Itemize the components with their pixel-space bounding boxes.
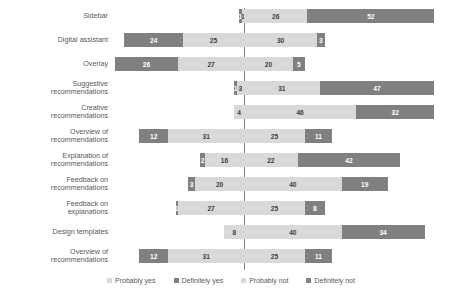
bar-segment-value: 25 <box>271 133 278 140</box>
bar-segment-py: 25 <box>244 201 305 215</box>
bar-segment-value: 26 <box>143 61 150 68</box>
bar-segment-value: 12 <box>150 133 157 140</box>
bar-segment-py: 26 <box>244 9 307 23</box>
bar-segment-py: 22 <box>244 153 298 167</box>
legend-swatch-icon <box>107 278 112 283</box>
bar-segment-value: 31 <box>203 133 210 140</box>
bar-segment-value: 24 <box>150 37 157 44</box>
chart-row: Suggestiverecommendations133147 <box>0 76 462 100</box>
bar-segment-pn: 4 <box>234 105 244 119</box>
bar-track: 44632 <box>110 100 462 124</box>
bar-segment-value: 40 <box>289 181 296 188</box>
category-label: Sidebar <box>0 4 108 28</box>
bar-segment-py: 31 <box>244 81 320 95</box>
bar-segment-value: 8 <box>232 229 236 236</box>
legend-swatch-icon <box>174 278 179 283</box>
legend-item[interactable]: Definitely not <box>306 277 354 284</box>
bar-segment-value: 20 <box>265 61 272 68</box>
bar-segment-value: 27 <box>207 61 214 68</box>
chart-row: Feedback onexplanations127258 <box>0 196 462 220</box>
bar-track: 112652 <box>110 4 462 28</box>
category-label-line: Overlay <box>83 60 108 68</box>
category-label: Suggestiverecommendations <box>0 76 108 100</box>
chart-row: Creativerecommendations44632 <box>0 100 462 124</box>
bar-segment-value: 40 <box>289 229 296 236</box>
bar-segment-value: 25 <box>271 205 278 212</box>
bar-segment-pn: 31 <box>168 249 244 263</box>
chart-row: Overview ofrecommendations12312511 <box>0 244 462 268</box>
bar-segment-value: 52 <box>367 13 374 20</box>
category-label: Overview ofrecommendations <box>0 244 108 268</box>
bar-segment-value: 46 <box>296 109 303 116</box>
category-label: Overview ofrecommendations <box>0 124 108 148</box>
category-label-line: recommendations <box>51 88 108 96</box>
category-label: Creativerecommendations <box>0 100 108 124</box>
bar-segment-value: 31 <box>278 85 285 92</box>
bar-segment-dy: 42 <box>298 153 400 167</box>
bar-segment-value: 34 <box>379 229 386 236</box>
bar-segment-value: 20 <box>216 181 223 188</box>
legend-item[interactable]: Probably yes <box>107 277 155 284</box>
bar-segment-dy: 11 <box>305 249 332 263</box>
bar-segment-py: 25 <box>244 249 305 263</box>
legend-label: Definitely not <box>314 277 354 284</box>
category-label-line: Design templates <box>52 228 108 236</box>
bar-segment-value: 11 <box>315 253 322 260</box>
legend-label: Probably yes <box>115 277 155 284</box>
diverging-stacked-bar-chart: Sidebar112652Digital assistant2425303Ove… <box>0 0 462 300</box>
bar-track: 12312511 <box>110 124 462 148</box>
legend-item[interactable]: Probably not <box>241 277 288 284</box>
bar-segment-pn: 27 <box>178 57 244 71</box>
category-label-line: recommendations <box>51 112 108 120</box>
bar-segment-pn: 27 <box>178 201 244 215</box>
chart-row: Design templates84034 <box>0 220 462 244</box>
bar-segment-dy: 19 <box>342 177 388 191</box>
bar-track: 84034 <box>110 220 462 244</box>
bar-track: 2627205 <box>110 52 462 76</box>
bar-segment-dn: 24 <box>124 33 183 47</box>
legend-item[interactable]: Definitely yes <box>174 277 224 284</box>
bar-segment-py: 40 <box>244 225 342 239</box>
bar-segment-py: 30 <box>244 33 317 47</box>
bar-segment-dy: 34 <box>342 225 425 239</box>
bar-track: 2425303 <box>110 28 462 52</box>
bar-segment-value: 25 <box>271 253 278 260</box>
category-label: Feedback onexplanations <box>0 196 108 220</box>
legend-label: Definitely yes <box>182 277 224 284</box>
bar-segment-py: 25 <box>244 129 305 143</box>
chart-row: Sidebar112652 <box>0 4 462 28</box>
bar-segment-value: 5 <box>297 61 301 68</box>
bar-track: 133147 <box>110 76 462 100</box>
category-label: Digital assistant <box>0 28 108 52</box>
bar-segment-value: 32 <box>392 109 399 116</box>
bar-segment-value: 11 <box>315 133 322 140</box>
bar-segment-value: 27 <box>207 205 214 212</box>
bar-segment-pn: 16 <box>205 153 244 167</box>
bar-segment-py: 46 <box>244 105 356 119</box>
chart-row: Feedback onrecommendations3204019 <box>0 172 462 196</box>
bar-segment-pn: 3 <box>237 81 244 95</box>
bar-segment-py: 40 <box>244 177 342 191</box>
chart-legend: Probably yesDefinitely yesProbably notDe… <box>0 272 462 288</box>
bar-segment-value: 22 <box>267 157 274 164</box>
bar-segment-value: 3 <box>238 85 242 92</box>
bar-segment-pn: 20 <box>195 177 244 191</box>
category-label-line: recommendations <box>51 184 108 192</box>
category-label: Explanation ofrecommendations <box>0 148 108 172</box>
bar-segment-pn: 31 <box>168 129 244 143</box>
bar-segment-value: 2 <box>201 157 205 164</box>
category-label-line: Digital assistant <box>58 36 108 44</box>
bar-track: 12312511 <box>110 244 462 268</box>
category-label: Overlay <box>0 52 108 76</box>
bar-segment-dn: 12 <box>139 129 168 143</box>
chart-row: Explanation ofrecommendations2162242 <box>0 148 462 172</box>
bar-segment-dy: 52 <box>307 9 434 23</box>
bar-segment-value: 19 <box>361 181 368 188</box>
plot-area: Sidebar112652Digital assistant2425303Ove… <box>0 4 462 268</box>
bar-track: 127258 <box>110 196 462 220</box>
bar-segment-value: 30 <box>277 37 284 44</box>
bar-segment-value: 47 <box>373 85 380 92</box>
chart-row: Overlay2627205 <box>0 52 462 76</box>
chart-row: Overview ofrecommendations12312511 <box>0 124 462 148</box>
bar-segment-dy: 5 <box>293 57 305 71</box>
